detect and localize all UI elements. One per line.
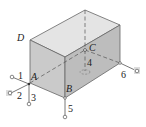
link-2-pin bbox=[8, 91, 12, 95]
link-6-joint bbox=[119, 62, 122, 65]
label-c: C bbox=[89, 42, 96, 53]
label-link-3: 3 bbox=[31, 92, 36, 103]
label-link-5: 5 bbox=[68, 103, 73, 114]
link-6-pin bbox=[135, 69, 139, 73]
link-1-pin bbox=[10, 75, 14, 79]
label-a: A bbox=[30, 71, 38, 82]
label-link-4: 4 bbox=[87, 57, 92, 68]
label-d: D bbox=[16, 32, 25, 43]
label-link-1: 1 bbox=[18, 70, 23, 81]
block-link-diagram: D A B C 1 2 3 4 5 6 bbox=[0, 0, 146, 127]
link-5-pin bbox=[63, 115, 67, 119]
label-link-6: 6 bbox=[121, 69, 126, 80]
point-c-joint bbox=[84, 49, 87, 52]
point-a-joint bbox=[28, 83, 30, 85]
label-link-2: 2 bbox=[17, 90, 22, 101]
label-b: B bbox=[66, 83, 72, 94]
point-b-joint bbox=[64, 97, 67, 100]
